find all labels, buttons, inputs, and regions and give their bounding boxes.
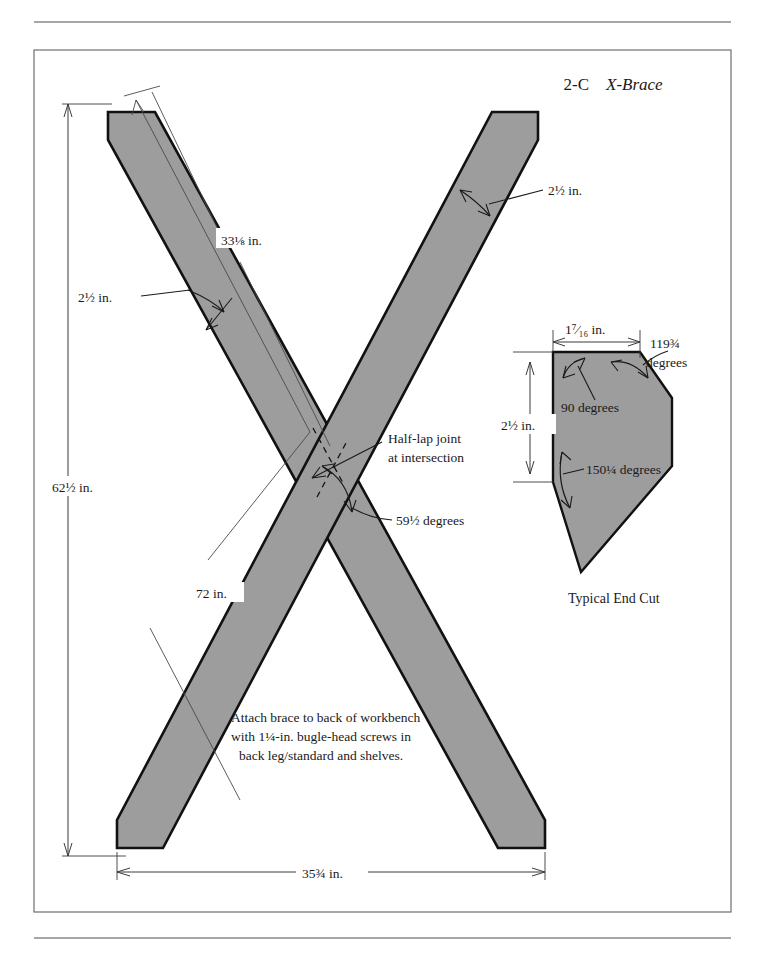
label-half-lap-line2: at intersection [388, 450, 464, 465]
label-angle-119-line1: 119¾ [650, 336, 680, 351]
detail-caption: Typical End Cut [568, 591, 660, 606]
label-brace-length-long: 72 in. [196, 586, 227, 601]
note-line-2: with 1¼-in. bugle-head screws in [231, 729, 411, 744]
label-half-lap-line1: Half-lap joint [388, 431, 461, 446]
note-line-1: Attach brace to back of workbench [231, 710, 421, 725]
label-brace-length-short: 33⅛ in. [221, 233, 262, 248]
note-line-3: back leg/standard and shelves. [239, 748, 403, 763]
label-overall-height: 62½ in. [52, 480, 93, 495]
label-end-cut-height: 2½ in. [501, 418, 535, 433]
figure-title: X-Brace [605, 75, 663, 94]
leader-board-width-left [141, 290, 190, 296]
figure-number: 2-C [564, 75, 590, 94]
label-board-width-left: 2½ in. [78, 290, 112, 305]
label-overall-width: 35¾ in. [302, 866, 343, 881]
tick-33in-top [124, 86, 160, 96]
label-angle-90: 90 degrees [561, 400, 619, 415]
label-end-cut-top-width: 1⁷⁄₁₆ in. [565, 322, 605, 337]
label-angle-150: 150¼ degrees [586, 462, 661, 477]
dim-line-72in-upper [136, 100, 310, 432]
figure-page: 2-C X-Brace 62½ in. 35¾ in. 72 in. 33⅛ i… [0, 0, 763, 959]
label-board-width-right: 2½ in. [548, 183, 582, 198]
label-intersection-angle: 59½ degrees [396, 513, 464, 528]
label-angle-119-line2: degrees [646, 355, 687, 370]
